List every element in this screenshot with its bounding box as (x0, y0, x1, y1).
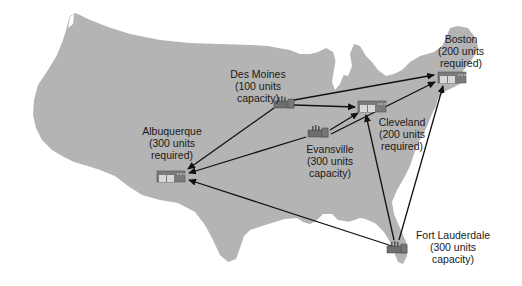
factory-capacity-unit: capacity) (297, 167, 363, 179)
distribution-network-diagram: Des Moines (100 units capacity) Evansvil… (0, 0, 522, 286)
label-albuquerque: Albuquerque (300 units required) (136, 125, 208, 161)
warehouse-requirement: (200 units (372, 128, 432, 140)
factory-capacity-unit: capacity) (223, 92, 293, 104)
label-fort-lauderdale: Fort Lauderdale (300 units capacity) (405, 229, 501, 265)
warehouse-name: Cleveland (372, 116, 432, 128)
label-des-moines: Des Moines (100 units capacity) (223, 68, 293, 104)
label-cleveland: Cleveland (200 units required) (372, 116, 432, 152)
warehouse-requirement: (200 units (435, 45, 487, 57)
warehouse-icon-albuquerque (157, 171, 185, 182)
warehouse-requirement-unit: required) (136, 149, 208, 161)
warehouse-requirement-unit: required) (435, 57, 487, 69)
factory-name: Evansville (297, 143, 363, 155)
warehouse-icon-boston (438, 72, 466, 83)
factory-capacity: (300 units (405, 241, 501, 253)
warehouse-requirement: (300 units (136, 137, 208, 149)
label-evansville: Evansville (300 units capacity) (297, 143, 363, 179)
factory-capacity: (100 units (223, 80, 293, 92)
warehouse-name: Boston (435, 33, 487, 45)
warehouse-name: Albuquerque (136, 125, 208, 137)
warehouse-requirement-unit: required) (372, 140, 432, 152)
factory-name: Fort Lauderdale (405, 229, 501, 241)
label-boston: Boston (200 units required) (435, 33, 487, 69)
factory-name: Des Moines (223, 68, 293, 80)
factory-capacity-unit: capacity) (405, 253, 501, 265)
warehouse-icon-cleveland (358, 101, 386, 112)
factory-capacity: (300 units (297, 155, 363, 167)
